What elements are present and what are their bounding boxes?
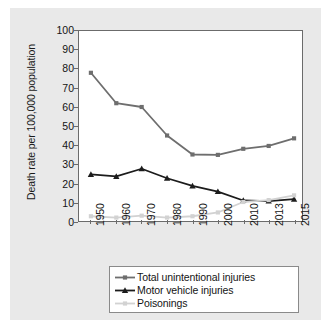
data-point-marker — [140, 105, 144, 109]
data-point-marker — [267, 198, 271, 202]
x-axis-tick-mark — [167, 220, 168, 224]
legend-item[interactable]: Poisonings — [113, 296, 294, 309]
legend-key-icon — [113, 283, 137, 296]
legend-key-icon — [113, 270, 137, 283]
legend-label: Motor vehicle injuries — [137, 284, 233, 296]
y-axis-tick-label: 60 — [50, 101, 74, 113]
series-lines — [79, 31, 302, 221]
legend-item[interactable]: Total unintentional injuries — [113, 270, 294, 283]
x-axis-tick-label: 2015 — [299, 203, 311, 226]
y-axis-tick-label: 70 — [50, 82, 74, 94]
y-axis-tick-label: 90 — [50, 43, 74, 55]
data-point-marker — [241, 200, 245, 204]
data-point-marker — [216, 210, 220, 214]
x-axis-tick-label: 1980 — [171, 203, 183, 226]
data-point-marker — [216, 153, 220, 157]
x-axis-tick-mark — [193, 220, 194, 224]
data-point-marker — [190, 214, 194, 218]
y-axis-tick-label: 20 — [50, 178, 74, 190]
y-axis-tick-mark — [74, 222, 78, 223]
y-axis-tick-label: 30 — [50, 158, 74, 170]
y-axis-title: Death rate per 100,000 population — [25, 27, 37, 217]
x-axis-tick-mark — [244, 220, 245, 224]
data-point-marker — [292, 136, 296, 140]
series-2 — [88, 166, 298, 204]
x-axis-tick-label: 1950 — [94, 203, 106, 226]
data-point-marker — [165, 133, 169, 137]
y-axis-tick-labels: 0102030405060708090100 — [46, 30, 74, 222]
data-point-marker — [267, 144, 271, 148]
data-point-marker — [114, 101, 118, 105]
chart-legend: Total unintentional injuriesMotor vehicl… — [109, 266, 299, 313]
x-axis-tick-label: 2000 — [222, 203, 234, 226]
data-point-marker — [89, 214, 93, 218]
series-1 — [89, 71, 296, 157]
legend-label: Total unintentional injuries — [137, 271, 255, 283]
data-point-marker — [292, 193, 296, 197]
x-axis-tick-label: 2010 — [248, 203, 260, 226]
x-axis-tick-label: 1960 — [120, 203, 132, 226]
chart-figure: Death rate per 100,000 population 010203… — [10, 8, 321, 320]
x-axis-tick-label: 2013 — [273, 203, 285, 226]
plot-area — [78, 30, 303, 222]
y-axis-tick-label: 40 — [50, 139, 74, 151]
x-axis-tick-mark — [116, 220, 117, 224]
y-axis-tick-label: 100 — [50, 24, 74, 36]
series-line — [91, 73, 294, 155]
x-axis-tick-mark — [295, 220, 296, 224]
data-point-marker — [140, 214, 144, 218]
x-axis-tick-mark — [90, 220, 91, 224]
x-axis-tick-label: 1970 — [145, 203, 157, 226]
legend-key-icon — [113, 296, 137, 309]
y-axis-tick-label: 0 — [50, 216, 74, 228]
x-axis-tick-mark — [269, 220, 270, 224]
x-axis-tick-label: 1990 — [197, 203, 209, 226]
y-axis-tick-label: 10 — [50, 197, 74, 209]
x-axis-tick-mark — [141, 220, 142, 224]
legend-label: Poisonings — [137, 297, 187, 309]
y-axis-tick-label: 80 — [50, 62, 74, 74]
data-point-marker — [190, 152, 194, 156]
data-point-marker — [241, 147, 245, 151]
x-axis-tick-mark — [218, 220, 219, 224]
data-point-marker — [139, 166, 145, 172]
x-axis-tick-labels: 195019601970198019902000201020132015 — [78, 224, 303, 268]
data-point-marker — [89, 71, 93, 75]
legend-item[interactable]: Motor vehicle injuries — [113, 283, 294, 296]
y-axis-tick-label: 50 — [50, 120, 74, 132]
